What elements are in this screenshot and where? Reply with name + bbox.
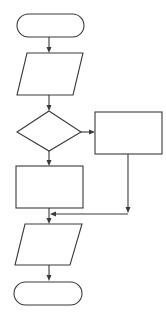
arrow-merge-to-output [47,208,52,224]
input-parallelogram [17,53,83,95]
start-terminator [17,14,84,37]
arrow-decision-to-left-process [47,151,52,166]
arrow-decision-to-right-process [81,130,95,135]
arrow-output-to-end [47,265,52,281]
arrow-input-to-decision [47,95,52,111]
arrow-right-process-down [126,154,131,213]
end-terminator [14,282,82,305]
decision-diamond [17,111,81,151]
flowchart [0,0,166,330]
process-right-rectangle [95,112,162,154]
arrow-start-to-input [47,37,52,53]
process-left-rectangle [16,166,83,208]
output-parallelogram [15,224,82,265]
arrow-merge-left [50,212,128,217]
